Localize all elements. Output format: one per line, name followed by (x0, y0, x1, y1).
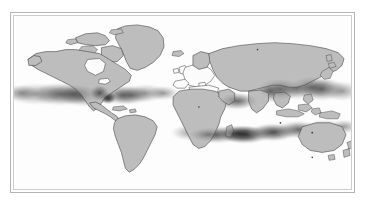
figure-container: World map with shaded tropical density b… (0, 0, 367, 205)
overlay-southern-indian-band (187, 123, 300, 143)
density-shading-overlay (14, 16, 351, 189)
figure-frame-inner (13, 15, 352, 190)
world-map (14, 16, 351, 189)
overlay-asia-band (217, 75, 338, 110)
